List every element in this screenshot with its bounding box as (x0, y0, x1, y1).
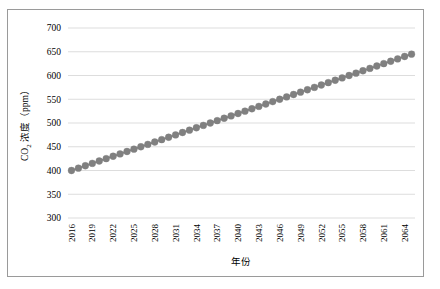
x-tick-label: 2049 (296, 224, 306, 243)
chart-figure: 300350400450500550600650700 201620192022… (0, 0, 440, 289)
svg-text:CO2 浓度（ppm）: CO2 浓度（ppm） (19, 85, 33, 161)
x-tick-label: 2052 (317, 224, 327, 242)
y-tick-label: 600 (47, 71, 62, 81)
data-point (255, 103, 262, 110)
data-point (89, 160, 96, 167)
data-point (297, 89, 304, 96)
data-point (221, 115, 228, 122)
data-point (235, 110, 242, 117)
y-axis-title: CO2 浓度（ppm） (19, 85, 33, 161)
co2-concentration-line-chart: 300350400450500550600650700 201620192022… (0, 0, 440, 289)
y-tick-label: 300 (47, 213, 62, 223)
data-point (373, 63, 380, 70)
data-point (117, 150, 124, 157)
y-tick-label: 700 (47, 23, 62, 33)
svg-text:年份: 年份 (231, 256, 251, 267)
x-tick-label: 2040 (233, 224, 243, 243)
x-tick-label: 2061 (379, 224, 389, 242)
data-point (165, 134, 172, 141)
data-point (110, 153, 117, 160)
data-point (387, 58, 394, 65)
data-point (144, 141, 151, 148)
x-tick-label: 2055 (337, 224, 347, 243)
data-point (68, 167, 75, 174)
y-axis-tick-labels: 300350400450500550600650700 (47, 23, 62, 223)
data-point (137, 143, 144, 150)
data-point (318, 82, 325, 89)
data-point (186, 127, 193, 134)
data-point (193, 124, 200, 131)
y-tick-label: 400 (47, 166, 62, 176)
data-point (158, 136, 165, 143)
data-point (124, 148, 131, 155)
data-point (228, 112, 235, 119)
data-point (332, 77, 339, 84)
x-axis-tick-labels: 2016201920222025202820312034203720402043… (67, 224, 410, 243)
data-point (311, 84, 318, 91)
y-tick-label: 550 (47, 95, 62, 105)
y-tick-label: 650 (47, 47, 62, 57)
data-point (172, 131, 179, 138)
x-axis-title: 年份 (231, 256, 251, 267)
x-tick-label: 2043 (254, 224, 264, 243)
data-point (103, 155, 110, 162)
x-tick-label: 2064 (400, 224, 410, 243)
data-point (249, 105, 256, 112)
x-tick-label: 2034 (192, 224, 202, 243)
data-point (151, 139, 158, 146)
y-tick-label: 450 (47, 142, 62, 152)
data-point (408, 51, 415, 58)
data-point (353, 70, 360, 77)
data-point (360, 67, 367, 74)
x-tick-label: 2028 (150, 224, 160, 243)
data-point (346, 72, 353, 79)
data-point (401, 53, 408, 60)
data-point (242, 108, 249, 115)
x-tick-label: 2058 (358, 224, 368, 243)
data-point (82, 162, 89, 169)
x-tick-label: 2046 (275, 224, 285, 243)
data-point (366, 65, 373, 72)
data-point (394, 55, 401, 62)
data-point (200, 122, 207, 129)
data-point (75, 165, 82, 172)
data-point (304, 86, 311, 93)
data-point (290, 91, 297, 98)
y-tick-label: 500 (47, 118, 62, 128)
x-tick-label: 2025 (129, 224, 139, 243)
data-point (325, 79, 332, 86)
data-point (262, 101, 269, 108)
data-point (276, 96, 283, 103)
x-tick-label: 2019 (87, 224, 97, 243)
data-point (131, 146, 138, 153)
data-point (96, 158, 103, 165)
data-point (283, 93, 290, 100)
x-tick-label: 2022 (108, 224, 118, 242)
x-tick-label: 2016 (67, 224, 77, 243)
data-point (214, 117, 221, 124)
data-point (339, 74, 346, 81)
data-point (380, 60, 387, 67)
x-tick-label: 2037 (212, 224, 222, 243)
x-tick-label: 2031 (171, 224, 181, 242)
data-point (269, 98, 276, 105)
y-tick-label: 350 (47, 190, 62, 200)
data-point (207, 120, 214, 127)
data-point (179, 129, 186, 136)
